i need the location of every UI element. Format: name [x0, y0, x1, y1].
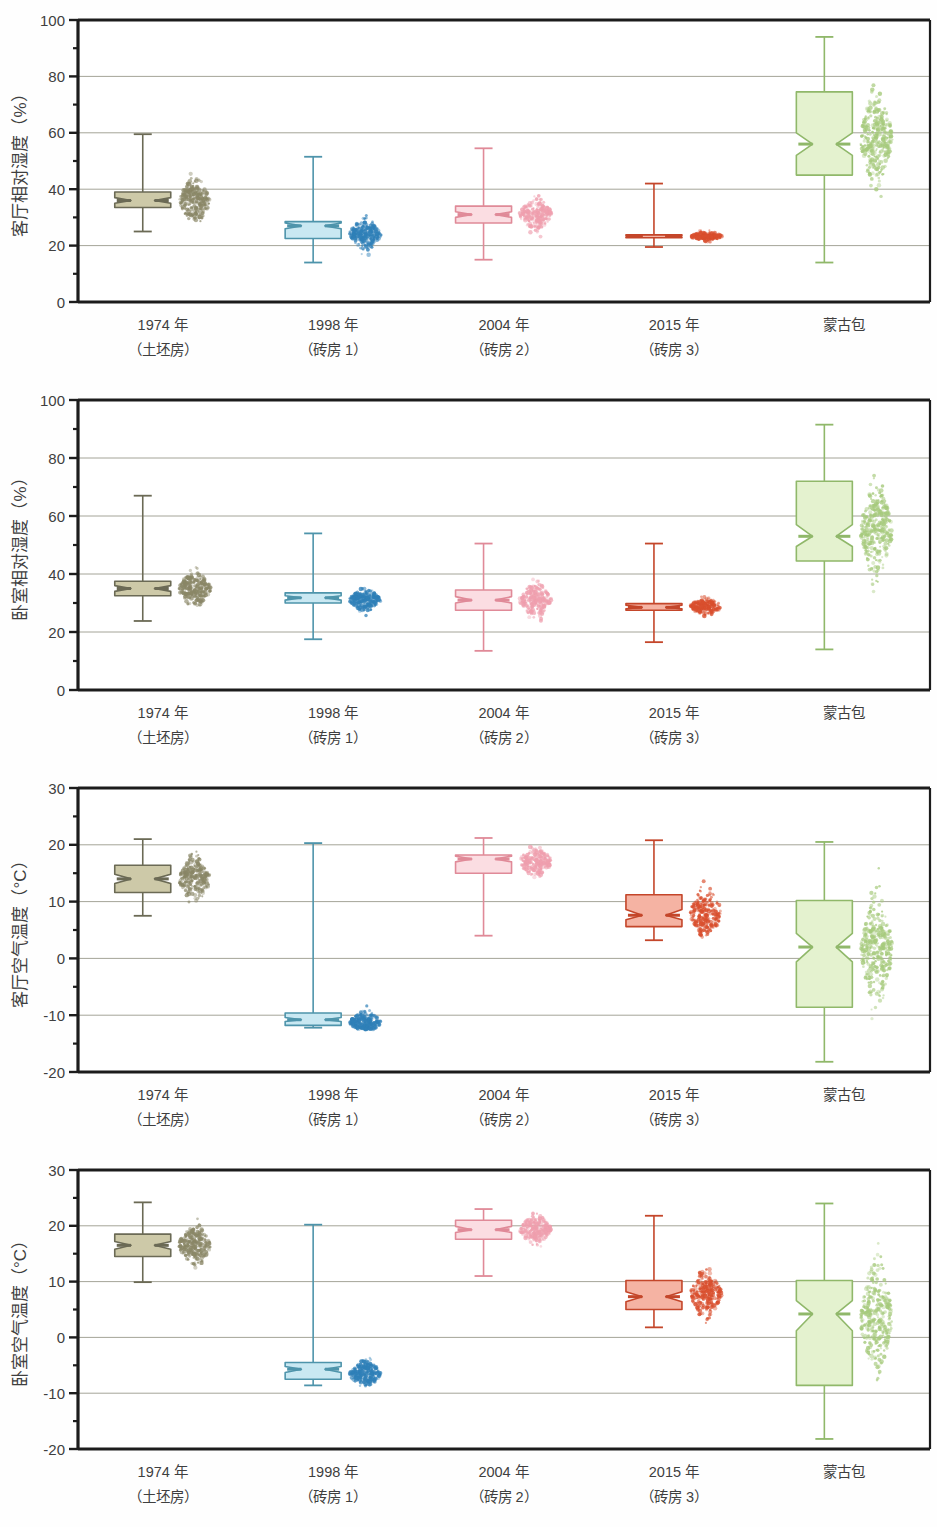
y-tick-label: -20 — [43, 1441, 65, 1458]
x-category-label-line2: （砖房 1） — [299, 1489, 367, 1505]
box-body — [626, 895, 682, 927]
x-category-label-line2: （土坯房） — [128, 1112, 198, 1128]
x-category-label-line1: 2015 年 — [649, 1087, 699, 1103]
y-tick-label: 30 — [48, 1162, 65, 1179]
plot-background — [78, 1170, 930, 1449]
box-body — [285, 1363, 341, 1380]
x-category-label-line1: 1974 年 — [138, 705, 188, 721]
y-tick-label: 0 — [57, 1329, 65, 1346]
y-tick-label: 80 — [48, 68, 65, 85]
x-category-label-line2: （砖房 3） — [640, 342, 708, 358]
y-tick-label: 80 — [48, 450, 65, 467]
y-axis-title: 卧室空气温度（°C） — [11, 1232, 30, 1387]
box-plot-svg: -20-100102030卧室空气温度（°C）1974 年（土坯房）1998 年… — [0, 1150, 937, 1527]
x-category-label-line1: 2015 年 — [649, 1464, 699, 1480]
x-category-label-line2: （砖房 2） — [470, 1489, 538, 1505]
y-tick-label: -10 — [43, 1007, 65, 1024]
y-tick-label: -20 — [43, 1064, 65, 1081]
x-category-label-line1: 1974 年 — [138, 1464, 188, 1480]
chart-panel-4: -20-100102030卧室空气温度（°C）1974 年（土坯房）1998 年… — [0, 1150, 937, 1527]
y-tick-label: 0 — [57, 294, 65, 311]
y-tick-label: 10 — [48, 1273, 65, 1290]
box-body — [796, 92, 852, 175]
box-plot-svg: -20-100102030客厅空气温度（°C）1974 年（土坯房）1998 年… — [0, 768, 937, 1150]
box-body — [796, 900, 852, 1007]
x-category-label-line1: 2015 年 — [649, 705, 699, 721]
x-category-label-line1: 蒙古包 — [823, 1087, 865, 1103]
chart-panel-2: 020406080100卧室相对湿度（%）1974 年（土坯房）1998 年（砖… — [0, 380, 937, 768]
y-tick-label: 40 — [48, 566, 65, 583]
x-category-label-line2: （土坯房） — [128, 1489, 198, 1505]
x-category-label-line1: 1974 年 — [138, 1087, 188, 1103]
x-category-label-line2: （砖房 2） — [470, 342, 538, 358]
box-body — [796, 1280, 852, 1385]
x-category-label-line2: （砖房 2） — [470, 1112, 538, 1128]
x-category-label-line1: 蒙古包 — [823, 1464, 865, 1480]
x-category-label-line1: 1974 年 — [138, 317, 188, 333]
box-body — [796, 481, 852, 561]
y-tick-label: 30 — [48, 780, 65, 797]
x-category-label-line1: 2004 年 — [478, 1087, 528, 1103]
y-tick-label: 100 — [40, 12, 65, 29]
x-category-label-line1: 2004 年 — [478, 705, 528, 721]
x-category-label-line1: 1998 年 — [308, 317, 358, 333]
chart-panel-3: -20-100102030客厅空气温度（°C）1974 年（土坯房）1998 年… — [0, 768, 937, 1150]
y-tick-label: 0 — [57, 682, 65, 699]
y-tick-label: -10 — [43, 1385, 65, 1402]
x-category-label-line2: （土坯房） — [128, 730, 198, 746]
y-tick-label: 20 — [48, 624, 65, 641]
figure-page: 020406080100客厅相对湿度（%）1974 年（土坯房）1998 年（砖… — [0, 0, 937, 1527]
chart-panel-1: 020406080100客厅相对湿度（%）1974 年（土坯房）1998 年（砖… — [0, 0, 937, 380]
y-tick-label: 100 — [40, 392, 65, 409]
y-tick-label: 20 — [48, 836, 65, 853]
x-category-label-line1: 1998 年 — [308, 705, 358, 721]
x-category-label-line2: （砖房 1） — [299, 342, 367, 358]
x-category-label-line1: 2004 年 — [478, 1464, 528, 1480]
x-category-label-line2: （砖房 1） — [299, 1112, 367, 1128]
x-category-label-line2: （砖房 1） — [299, 730, 367, 746]
x-category-label-line1: 蒙古包 — [823, 317, 865, 333]
y-tick-label: 10 — [48, 893, 65, 910]
y-axis-title: 客厅相对湿度（%） — [11, 85, 30, 236]
y-tick-label: 0 — [57, 950, 65, 967]
y-tick-label: 60 — [48, 124, 65, 141]
box-body — [285, 222, 341, 239]
y-axis-title: 客厅空气温度（°C） — [11, 852, 30, 1007]
box-plot-svg: 020406080100卧室相对湿度（%）1974 年（土坯房）1998 年（砖… — [0, 380, 937, 768]
x-category-label-line1: 1998 年 — [308, 1464, 358, 1480]
box-body — [626, 1280, 682, 1309]
y-axis-title: 卧室相对湿度（%） — [11, 469, 30, 620]
x-category-label-line2: （土坯房） — [128, 342, 198, 358]
y-tick-label: 40 — [48, 181, 65, 198]
y-tick-label: 20 — [48, 1217, 65, 1234]
x-category-label-line2: （砖房 3） — [640, 730, 708, 746]
x-category-label-line2: （砖房 3） — [640, 1489, 708, 1505]
y-tick-label: 60 — [48, 508, 65, 525]
y-tick-label: 20 — [48, 237, 65, 254]
x-category-label-line1: 2015 年 — [649, 317, 699, 333]
x-category-label-line1: 2004 年 — [478, 317, 528, 333]
box-plot-svg: 020406080100客厅相对湿度（%）1974 年（土坯房）1998 年（砖… — [0, 0, 937, 380]
x-category-label-line1: 1998 年 — [308, 1087, 358, 1103]
x-category-label-line2: （砖房 3） — [640, 1112, 708, 1128]
x-category-label-line1: 蒙古包 — [823, 705, 865, 721]
x-category-label-line2: （砖房 2） — [470, 730, 538, 746]
